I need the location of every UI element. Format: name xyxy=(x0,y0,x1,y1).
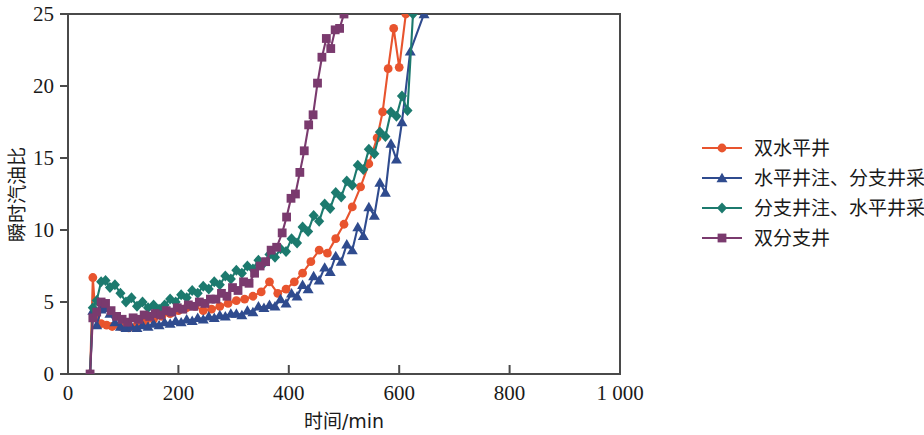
series-marker xyxy=(257,288,266,297)
series-marker xyxy=(261,257,270,266)
series-marker xyxy=(395,63,404,72)
series-marker xyxy=(245,279,254,288)
x-tick-label: 200 xyxy=(163,381,195,405)
series-marker xyxy=(88,273,97,282)
legend-label: 水平井注、分支井采 xyxy=(754,167,924,189)
series-marker xyxy=(309,110,318,119)
series-marker xyxy=(318,53,327,62)
series-marker xyxy=(335,24,344,33)
series-marker xyxy=(323,249,332,258)
x-tick-label: 1 000 xyxy=(596,381,643,405)
y-tick-label: 0 xyxy=(44,362,55,386)
series-marker xyxy=(223,292,232,301)
series-marker xyxy=(298,269,307,278)
series-marker xyxy=(384,64,393,73)
series-marker xyxy=(313,79,322,88)
series-marker xyxy=(295,168,304,177)
series-marker xyxy=(92,308,101,317)
series-marker xyxy=(232,296,241,305)
series-marker xyxy=(331,234,340,243)
series-marker xyxy=(278,228,287,237)
series-marker xyxy=(304,120,313,129)
series-marker xyxy=(234,286,243,295)
series-marker xyxy=(300,146,309,155)
series-marker xyxy=(282,213,291,222)
y-tick-label: 15 xyxy=(33,146,54,170)
series-marker xyxy=(290,277,299,286)
x-tick-label: 0 xyxy=(63,381,74,405)
series-marker xyxy=(389,24,398,33)
series-marker xyxy=(378,108,387,117)
series-marker xyxy=(356,182,365,191)
legend-marker xyxy=(718,234,727,243)
x-tick-label: 800 xyxy=(494,381,526,405)
series-marker xyxy=(249,292,258,301)
legend-label: 双水平井 xyxy=(754,137,830,159)
series-marker xyxy=(326,44,335,53)
x-axis-title: 时间/min xyxy=(304,410,384,432)
series-marker xyxy=(282,285,291,294)
series-marker xyxy=(272,243,281,252)
series-marker xyxy=(315,246,324,255)
legend-label: 分支井注、水平井采 xyxy=(754,197,924,219)
series-marker xyxy=(340,220,349,229)
series-marker xyxy=(306,257,315,266)
chart-figure: 0510152025 02004006008001 000 瞬时汽油比 时间/m… xyxy=(0,0,924,435)
series-marker xyxy=(291,190,300,199)
series-marker xyxy=(240,295,249,304)
y-tick-label: 25 xyxy=(33,2,54,26)
y-tick-label: 5 xyxy=(44,290,55,314)
x-tick-label: 400 xyxy=(273,381,305,405)
y-axis-title: 瞬时汽油比 xyxy=(6,147,28,242)
series-marker xyxy=(322,34,331,43)
x-tick-label: 600 xyxy=(383,381,415,405)
series-marker xyxy=(348,203,357,212)
y-tick-label: 10 xyxy=(33,218,54,242)
legend-marker xyxy=(718,144,727,153)
series-marker xyxy=(265,277,274,286)
legend-label: 双分支井 xyxy=(754,227,830,249)
y-tick-label: 20 xyxy=(33,74,54,98)
